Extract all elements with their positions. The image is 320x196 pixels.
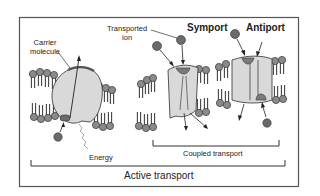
ion-label-line1: Transported — [107, 25, 147, 33]
carrier-molecule-label: Carrier molecule — [30, 39, 60, 55]
ion-label-line2: ion — [107, 34, 147, 42]
coupled-transport-label: Coupled transport — [183, 150, 243, 158]
energy-squiggle — [79, 124, 88, 149]
ion-antiport-out — [231, 30, 240, 39]
ion-carrier — [54, 133, 62, 141]
active-transport-label: Active transport — [124, 171, 193, 181]
symport-label: Symport — [187, 23, 228, 33]
antiport-label: Antiport — [246, 23, 285, 33]
carrier-label-line1: Carrier — [30, 39, 60, 47]
antiport-protein — [232, 56, 272, 103]
transported-ion-label: Transported ion — [107, 25, 147, 41]
active-transport-bracket — [31, 160, 285, 166]
coupled-transport-bracket — [153, 140, 279, 146]
energy-label: Energy — [89, 154, 113, 162]
ion-symport-b — [177, 36, 186, 45]
carrier-label-line2: molecule — [30, 48, 60, 56]
carrier-protein — [52, 67, 102, 123]
ion-antiport-in — [263, 119, 271, 127]
ion-symport-a — [153, 42, 162, 51]
